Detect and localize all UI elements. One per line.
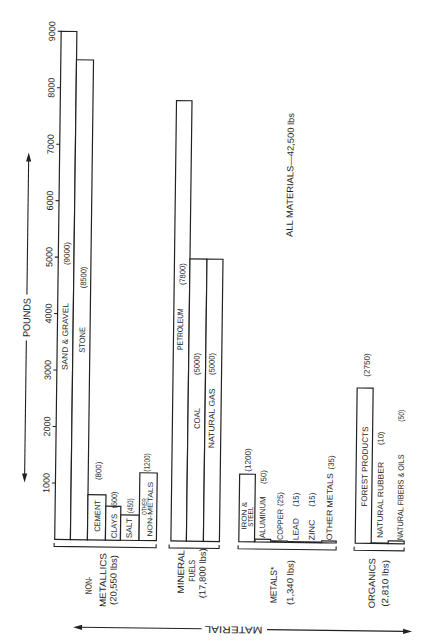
y-tick-label: 6000 (45, 191, 55, 211)
bar-label: NATURAL RUBBER (376, 462, 386, 538)
bar-value-label: (1200) (143, 453, 152, 472)
bar-value-label: (9000) (62, 242, 71, 265)
bar-lead (288, 542, 304, 543)
bar-label: LEAD (291, 518, 300, 540)
y-tick: 5000 (44, 247, 59, 267)
bar-label: COAL (193, 407, 202, 429)
bar-label: SALT (125, 518, 134, 538)
material-arrow-line-right (267, 630, 405, 632)
bar-value-label: (1200) (243, 448, 252, 472)
bar-value-label: (15) (292, 492, 301, 506)
bar-value-label: (450) (126, 498, 135, 513)
chart-body: 1000 2000 3000 4000 5000 6000 7000 8000 … (17, 21, 420, 638)
bar-label: NATURAL GAS (207, 388, 217, 448)
bar-aluminum (255, 539, 271, 542)
y-tick: 2000 (42, 416, 57, 436)
materials-bar-chart: 1000 2000 3000 4000 5000 6000 7000 8000 … (0, 0, 437, 643)
bar-label: NATURAL FIBERS & OILS (396, 454, 406, 540)
group-bracket (169, 544, 219, 548)
total-annotation: ALL MATERIALS—42,500 lbs (284, 112, 296, 237)
y-tick: 6000 (45, 191, 60, 211)
group-mineral-fuels: PETROLEUM (7800) COAL (5000) NATURAL GAS… (168, 101, 225, 599)
bar-copper (272, 541, 288, 543)
group-bracket (54, 543, 156, 548)
y-tick-label: 2000 (42, 416, 52, 436)
y-tick-label: 9000 (47, 21, 57, 41)
bar-value-label: (5000) (207, 353, 216, 375)
bar-label: CLAYS (110, 514, 119, 538)
group-total-label: (2,810 lbs) (380, 560, 391, 607)
bar-value-label: (600) (110, 491, 119, 508)
bar-value-label: (8500) (79, 266, 88, 288)
y-tick-label: 3000 (43, 360, 53, 380)
y-tick-label: 8000 (46, 78, 56, 98)
y-tick: 8000 (46, 78, 61, 98)
y-tick-label: 7000 (46, 134, 56, 154)
bar-label: ALUMINUM (258, 496, 268, 538)
bar-value-label: (35) (327, 455, 336, 469)
y-tick: 1000 (41, 473, 56, 493)
bar-label: PETROLEUM (176, 308, 186, 350)
bar-label: ZINC (307, 519, 316, 540)
bar-zinc (305, 542, 321, 543)
group-total-label: (20,550 lbs) (108, 555, 119, 605)
bar-value-label: (2750) (363, 353, 372, 377)
bar-value-label: (50) (259, 470, 268, 484)
bar-label: FOREST PRODUCTS (360, 427, 370, 507)
group-label-line: METALS* (268, 566, 278, 603)
group-total-label: (1,340 lbs) (285, 560, 296, 605)
x-axis-label: MATERIAL (204, 624, 263, 636)
bar-value-label: (25) (276, 492, 285, 506)
arrow-right-icon (403, 629, 412, 634)
y-tick: 3000 (43, 360, 58, 380)
y-tick: 4000 (43, 303, 58, 323)
arrow-left-icon (73, 625, 82, 630)
y-tick-label: 4000 (43, 303, 53, 323)
bar-value-label: (5000) (192, 353, 201, 375)
bar-label: OTHER METALS (325, 473, 335, 540)
bar-label-line: NON-METALS (146, 481, 154, 536)
group-organics: FOREST PRODUCTS (2750) NATURAL RUBBER (1… (353, 353, 407, 609)
bar-label-line: STEEL (247, 507, 254, 527)
arrow-up-icon (26, 153, 31, 162)
group-metals: IRON & STEEL (1200) ALUMINUM (50) COPPER… (237, 448, 337, 606)
y-tick-label: 5000 (44, 247, 54, 267)
group-label-line: FUELS (187, 560, 197, 582)
pounds-arrow-line-lower (25, 341, 27, 476)
bar-natural-rubber (371, 543, 388, 544)
y-tick: 9000 (47, 21, 62, 41)
group-bracket (354, 547, 404, 551)
y-axis-label: POUNDS (21, 298, 32, 337)
x-axis-title: MATERIAL (73, 622, 412, 637)
bar-value-label: (15) (308, 492, 317, 506)
group-bracket (238, 545, 336, 550)
group-total-label: (17,800 lbs) (197, 548, 208, 598)
bar-label: SAND & GRAVEL (60, 302, 70, 370)
y-axis-title: POUNDS (19, 152, 34, 482)
y-tick-label: 1000 (41, 473, 51, 493)
bar-label: STONE (78, 327, 87, 353)
arrow-down-icon (22, 474, 27, 483)
bar-label: COPPER (276, 509, 285, 540)
group-non-metallics: SAND & GRAVEL (9000) STONE (8500) CEMENT… (53, 31, 163, 607)
bar-value-label: (7800) (178, 263, 187, 285)
bar-label: CEMENT (93, 500, 102, 532)
group-label-line: MINERAL (176, 550, 187, 593)
bar-value-label: (10) (376, 431, 385, 445)
bar-value-label: (50) (397, 409, 406, 421)
group-label-line: NON- (84, 577, 94, 595)
bar-value-label: (800) (94, 461, 103, 480)
y-tick: 7000 (46, 134, 61, 154)
group-label-line: ORGANICS (367, 558, 378, 608)
group-label-line: METALLICS (98, 553, 109, 607)
material-arrow-line-left (80, 627, 202, 629)
pounds-arrow-line-upper (27, 160, 29, 295)
